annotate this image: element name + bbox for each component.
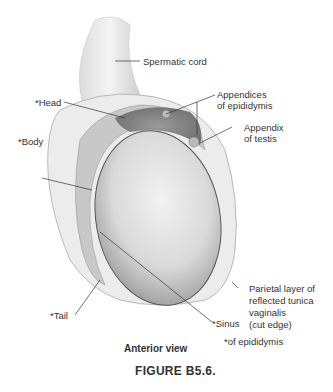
- view-label: Anterior view: [124, 343, 187, 354]
- figure-canvas: Spermatic cord *Head Appendices of epidi…: [0, 0, 333, 392]
- label-appendix-2: of testis: [244, 133, 277, 144]
- label-parietal-4: (cut edge): [249, 319, 292, 330]
- label-appendix-1: Appendix: [244, 122, 284, 133]
- label-sinus: *Sinus: [212, 318, 239, 329]
- label-tail: *Tail: [50, 310, 68, 321]
- label-parietal-2: reflected tunica: [249, 295, 313, 306]
- label-head: *Head: [35, 97, 61, 108]
- label-body: *Body: [18, 136, 43, 147]
- label-appendices-1: Appendices: [217, 89, 267, 100]
- label-spermatic-cord: Spermatic cord: [143, 56, 207, 67]
- label-parietal-1: Parietal layer of: [249, 283, 315, 294]
- figure-caption: FIGURE B5.6.: [135, 364, 216, 378]
- label-appendices-2: of epididymis: [217, 100, 272, 111]
- footnote: *of epididymis: [224, 336, 283, 347]
- label-parietal-3: vaginalis: [249, 307, 286, 318]
